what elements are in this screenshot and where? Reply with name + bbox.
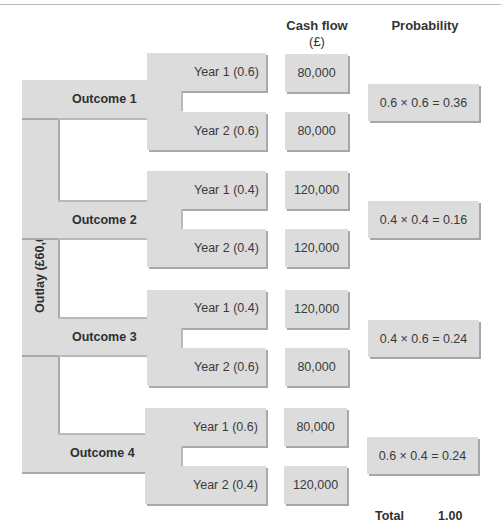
- outcome-4-year-2-cashflow: 120,000: [284, 466, 347, 504]
- outcome-4-probability: 0.6 × 0.4 = 0.24: [367, 437, 478, 474]
- top-rule: [0, 4, 501, 5]
- outcome-4-label: Outcome 4: [70, 446, 135, 460]
- outcome-3-probability: 0.4 × 0.6 = 0.24: [368, 320, 479, 357]
- outcome-2-probability: 0.4 × 0.4 = 0.16: [368, 201, 479, 238]
- outcome-4-year-2-label: Year 2 (0.4): [193, 478, 258, 492]
- outcome-1-year-1-label: Year 1 (0.6): [194, 65, 259, 79]
- outcome-2-inner-edge: [58, 238, 148, 240]
- outcome-2-year-1-cashflow: 120,000: [285, 171, 348, 209]
- outcome-2-year-2-label: Year 2 (0.4): [194, 241, 259, 255]
- outcome-3-year-1-label: Year 1 (0.4): [194, 301, 259, 315]
- outcome-2-label: Outcome 2: [72, 213, 137, 227]
- outcome-1-year-2-label: Year 2 (0.6): [194, 124, 259, 138]
- outcome-1-label: Outcome 1: [72, 92, 137, 106]
- outcome-3-label: Outcome 3: [72, 330, 137, 344]
- probability-header: Probability: [370, 18, 480, 34]
- outcome-3-year-2-label: Year 2 (0.6): [194, 360, 259, 374]
- outcome-4-branch-gap-edge: [181, 446, 183, 466]
- cash-flow-header-unit: (£): [280, 34, 354, 50]
- outcome-4-year-1-label: Year 1 (0.6): [193, 420, 258, 434]
- total-value: 1.00: [438, 509, 462, 523]
- outcome-2-year-1-label: Year 1 (0.4): [194, 183, 259, 197]
- outcome-3-year-1-cashflow: 120,000: [285, 290, 348, 328]
- outcome-4-year-1-cashflow: 80,000: [284, 408, 347, 446]
- cash-flow-header-label: Cash flow: [280, 18, 354, 34]
- outcome-3-year-2-cashflow: 80,000: [285, 348, 348, 386]
- outcome-1-inner-edge: [58, 118, 148, 120]
- total-label: Total: [375, 509, 404, 523]
- outcome-1-branch-gap-edge: [181, 91, 183, 111]
- outcome-2-year-2-cashflow: 120,000: [285, 229, 348, 267]
- outcome-3-branch-gap-edge: [181, 328, 183, 348]
- outcome-1-year-1-cashflow: 80,000: [285, 54, 348, 92]
- cash-flow-header: Cash flow (£): [280, 18, 354, 50]
- outcome-1-probability: 0.6 × 0.6 = 0.36: [368, 84, 479, 121]
- outcome-3-inner-edge: [58, 355, 148, 357]
- outcome-2-branch-gap-edge: [181, 209, 183, 229]
- outcome-1-year-2-cashflow: 80,000: [285, 112, 348, 150]
